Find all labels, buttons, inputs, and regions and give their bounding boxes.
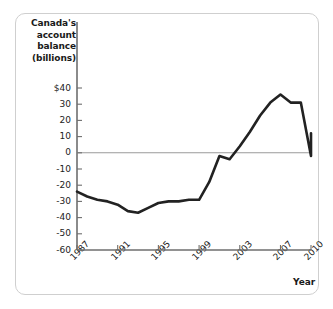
plot-area	[0, 0, 333, 309]
data-line-canada-account-balance	[77, 94, 311, 212]
